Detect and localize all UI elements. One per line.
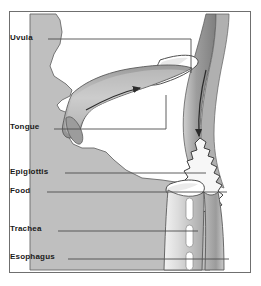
trachea-tube	[164, 190, 204, 270]
label-food: Food	[10, 186, 30, 195]
swallowing-anatomy-diagram	[10, 12, 250, 272]
label-esophagus: Esophagus	[10, 252, 55, 261]
figure-frame	[9, 11, 251, 273]
figure-root: Uvula Tongue Epiglottis Food Trachea Eso…	[0, 0, 261, 286]
label-uvula: Uvula	[10, 33, 33, 42]
tongue-and-palate	[62, 65, 192, 144]
label-tongue: Tongue	[10, 122, 40, 131]
label-trachea: Trachea	[10, 224, 42, 233]
label-epiglottis: Epiglottis	[10, 167, 48, 176]
